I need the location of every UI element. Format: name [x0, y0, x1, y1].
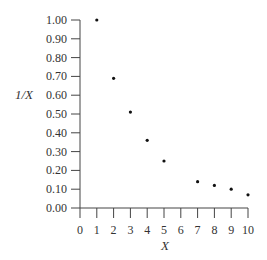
data-point: [162, 159, 165, 162]
x-tick-label: 0: [77, 223, 83, 237]
y-axis-label: 1/X: [15, 87, 34, 102]
data-point: [196, 180, 199, 183]
data-point: [146, 139, 149, 142]
y-tick-label: 0.30: [46, 145, 67, 159]
data-point: [112, 77, 115, 80]
x-tick-label: 9: [228, 223, 234, 237]
y-tick-label: 0.00: [46, 201, 67, 215]
x-tick-label: 2: [111, 223, 117, 237]
data-point: [95, 18, 98, 21]
y-tick-label: 0.60: [46, 88, 67, 102]
x-tick-label: 10: [242, 223, 254, 237]
y-tick-label: 0.20: [46, 163, 67, 177]
x-tick-label: 5: [161, 223, 167, 237]
scatter-chart: 0.000.100.200.300.400.500.600.700.800.90…: [0, 0, 267, 260]
y-tick-label: 0.10: [46, 182, 67, 196]
y-tick-label: 0.40: [46, 126, 67, 140]
data-point: [230, 188, 233, 191]
x-axis-label: X: [160, 238, 170, 253]
x-tick-label: 6: [178, 223, 184, 237]
x-tick-label: 8: [211, 223, 217, 237]
y-tick-label: 0.50: [46, 107, 67, 121]
data-point: [213, 184, 216, 187]
x-tick-label: 3: [127, 223, 133, 237]
data-point: [129, 111, 132, 114]
x-tick-label: 1: [94, 223, 100, 237]
y-tick-label: 0.90: [46, 32, 67, 46]
x-tick-label: 7: [195, 223, 201, 237]
y-tick-label: 1.00: [46, 13, 67, 27]
x-tick-label: 4: [144, 223, 150, 237]
y-tick-label: 0.70: [46, 69, 67, 83]
y-tick-label: 0.80: [46, 51, 67, 65]
data-point: [246, 193, 249, 196]
